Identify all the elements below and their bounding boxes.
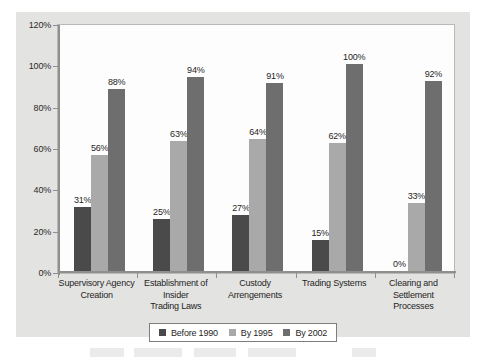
category-label-line: Processes (374, 301, 453, 313)
legend-swatch-icon (229, 329, 236, 336)
category-label-line: Settlement (374, 290, 453, 302)
bar-rect (187, 77, 204, 271)
y-axis-tick-label: 80% (34, 103, 51, 113)
bar-3: 91% (266, 25, 283, 271)
plot-area: 0%20%40%60%80%100%120% 31%56%88%25%63%94… (57, 24, 455, 274)
x-axis-category-label: CustodyArrengements (215, 278, 294, 301)
bar-1: 31% (74, 25, 91, 271)
x-axis-category-label: Clearing andSettlementProcesses (374, 278, 453, 313)
bar-value-label: 56% (91, 143, 108, 153)
bar-value-label: 88% (108, 77, 125, 87)
bar-value-label: 94% (187, 65, 204, 75)
x-axis-category-labels: Supervisory AgencyCreationEstablishment … (57, 276, 455, 326)
bar-value-label: 33% (408, 191, 425, 201)
bar-value-label: 91% (266, 71, 283, 81)
legend-item-2: By 1995 (229, 328, 273, 338)
scanned-figure-page: 0%20%40%60%80%100%120% 31%56%88%25%63%94… (0, 0, 485, 363)
category-label-line: Custody (215, 278, 294, 290)
y-axis-tick-mark (53, 190, 58, 191)
category-label-line: Supervisory Agency (57, 278, 136, 290)
category-label-line: Establishment of (136, 278, 215, 290)
bar-1: 0% (391, 25, 408, 271)
y-axis-tick-mark (53, 25, 58, 26)
bar-value-label: 25% (153, 207, 170, 217)
category-label-line: Creation (57, 290, 136, 302)
scan-artifact-caption (90, 348, 450, 357)
bar-rect (425, 81, 442, 271)
bar-rect (329, 143, 346, 271)
category-label-line: Clearing and (374, 278, 453, 290)
bar-2: 33% (408, 25, 425, 271)
bar-group: 25%63%94% (139, 25, 218, 271)
x-axis-line (58, 271, 456, 273)
bar-value-label: 100% (343, 52, 365, 62)
bar-rect (108, 89, 125, 271)
y-axis-tick-mark (53, 108, 58, 109)
bar-value-label: 27% (232, 203, 249, 213)
category-label-line: Trading Laws (136, 301, 215, 313)
x-axis-category-label: Supervisory AgencyCreation (57, 278, 136, 301)
chart-legend: Before 1990By 1995By 2002 (149, 323, 337, 342)
category-label-line: Insider (136, 290, 215, 302)
legend-label: By 1995 (241, 328, 273, 338)
bar-2: 63% (170, 25, 187, 271)
y-axis-tick-label: 20% (34, 227, 51, 237)
y-axis-tick-label: 40% (34, 185, 51, 195)
bar-3: 92% (425, 25, 442, 271)
y-axis-tick-label: 60% (34, 144, 51, 154)
chart-panel: 0%20%40%60%80%100%120% 31%56%88%25%63%94… (16, 12, 470, 337)
bar-3: 94% (187, 25, 204, 271)
bar-rect (312, 240, 329, 271)
bar-3: 88% (108, 25, 125, 271)
y-axis-tick-mark (53, 232, 58, 233)
bar-rect (249, 139, 266, 271)
legend-label: Before 1990 (171, 328, 218, 338)
legend-swatch-icon (159, 329, 166, 336)
bar-rect (153, 219, 170, 271)
bar-rect (170, 141, 187, 271)
bar-value-label: 0% (393, 259, 406, 269)
y-axis-tick-mark (53, 66, 58, 67)
bar-group: 0%33%92% (377, 25, 456, 271)
category-label-line: Arrengements (215, 290, 294, 302)
y-axis-tick-label: 0% (38, 268, 51, 278)
bar-2: 56% (91, 25, 108, 271)
bar-value-label: 62% (328, 131, 345, 141)
legend-label: By 2002 (295, 328, 327, 338)
bar-rect (74, 207, 91, 271)
bar-1: 15% (312, 25, 329, 271)
bar-value-label: 15% (311, 228, 328, 238)
bar-3: 100% (346, 25, 363, 271)
y-axis-tick-mark (53, 149, 58, 150)
bar-2: 64% (249, 25, 266, 271)
bar-value-label: 92% (425, 69, 442, 79)
bar-series-layer: 31%56%88%25%63%94%27%64%91%15%62%100%0%3… (60, 25, 454, 271)
legend-swatch-icon (283, 329, 290, 336)
bar-group: 27%64%91% (218, 25, 297, 271)
bar-rect (408, 203, 425, 271)
bar-rect (346, 64, 363, 271)
bar-rect (91, 155, 108, 271)
bar-1: 27% (232, 25, 249, 271)
x-axis-category-label: Establishment ofInsiderTrading Laws (136, 278, 215, 313)
bar-value-label: 63% (170, 129, 187, 139)
bar-rect (266, 83, 283, 271)
legend-item-1: Before 1990 (159, 328, 218, 338)
bar-1: 25% (153, 25, 170, 271)
bar-group: 31%56%88% (60, 25, 139, 271)
bar-value-label: 64% (249, 127, 266, 137)
legend-item-3: By 2002 (283, 328, 327, 338)
x-axis-category-label: Trading Systems (295, 278, 374, 290)
bar-group: 15%62%100% (298, 25, 377, 271)
y-axis-tick-label: 100% (29, 61, 51, 71)
y-axis-tick-label: 120% (29, 20, 51, 30)
category-label-line: Trading Systems (295, 278, 374, 290)
bar-value-label: 31% (74, 195, 91, 205)
bar-rect (232, 215, 249, 271)
